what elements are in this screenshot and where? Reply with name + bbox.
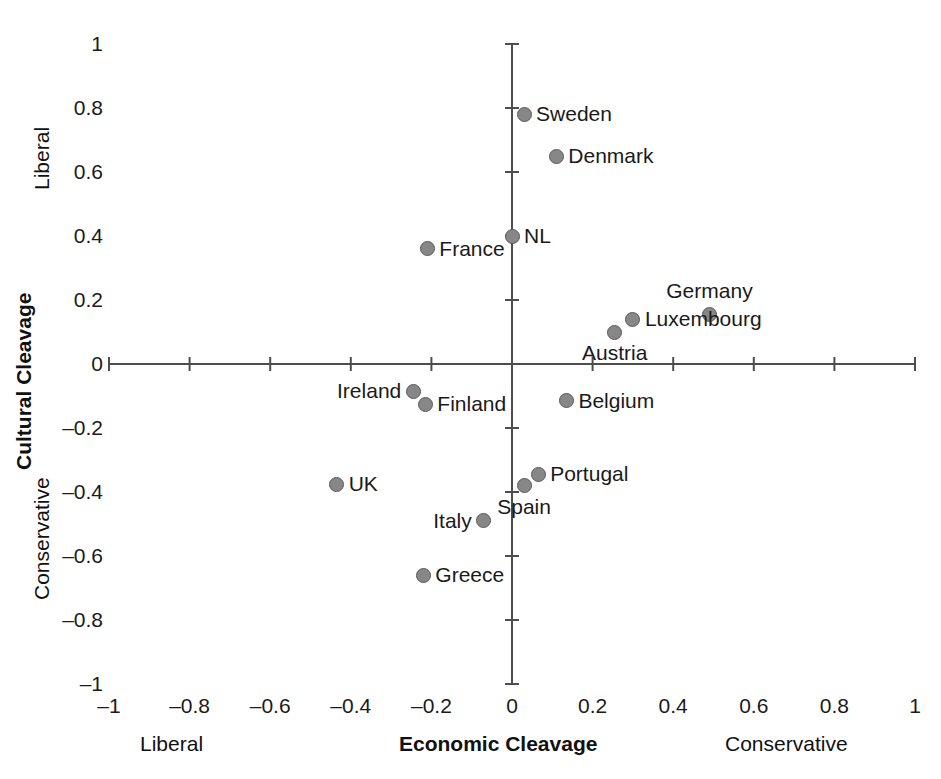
y-tick-label: 0.4 <box>74 224 103 248</box>
x-axis-liberal-label: Liberal <box>140 732 203 756</box>
data-point-label: Portugal <box>550 462 628 486</box>
data-point[interactable] <box>517 107 532 122</box>
axes-svg <box>0 0 941 779</box>
data-point-label: Greece <box>435 563 504 587</box>
data-point[interactable] <box>406 384 421 399</box>
data-point-label: NL <box>524 224 551 248</box>
x-axis-conservative-label: Conservative <box>725 732 848 756</box>
y-tick-label: –0.8 <box>62 608 103 632</box>
scatter-chart: 10.80.60.40.20–0.2–0.4–0.6–0.8–1 –1–0.8–… <box>0 0 941 779</box>
y-tick-label: 0.2 <box>74 288 103 312</box>
data-point[interactable] <box>329 477 344 492</box>
data-point-label: Ireland <box>337 379 401 403</box>
data-point-label: Finland <box>437 392 506 416</box>
x-tick-label: –0.8 <box>169 694 210 718</box>
y-tick-label: 0.8 <box>74 96 103 120</box>
data-point-label: France <box>439 237 504 261</box>
x-tick-label: 1 <box>909 694 921 718</box>
x-tick-label: 0.4 <box>659 694 688 718</box>
x-tick-label: 0.6 <box>739 694 768 718</box>
y-tick-label: –1 <box>80 672 103 696</box>
x-tick-label: –0.2 <box>411 694 452 718</box>
y-axis-title: Cultural Cleavage <box>12 293 36 470</box>
y-axis-conservative-label: Conservative <box>30 477 54 600</box>
x-tick-label: –1 <box>97 694 120 718</box>
y-tick-label: 0.6 <box>74 160 103 184</box>
data-point[interactable] <box>531 467 546 482</box>
data-point[interactable] <box>625 312 640 327</box>
data-point-label: UK <box>349 472 378 496</box>
x-axis-title: Economic Cleavage <box>399 732 597 756</box>
data-point-label: Austria <box>582 341 647 365</box>
data-point-label: Luxembourg <box>645 307 762 331</box>
data-point[interactable] <box>416 568 431 583</box>
y-tick-label: –0.2 <box>62 416 103 440</box>
x-tick-label: –0.6 <box>250 694 291 718</box>
data-point[interactable] <box>505 229 520 244</box>
x-tick-label: 0.8 <box>820 694 849 718</box>
y-tick-label: 1 <box>91 32 103 56</box>
data-point-label: Belgium <box>578 389 654 413</box>
x-tick-label: 0 <box>506 694 518 718</box>
plot-area: 10.80.60.40.20–0.2–0.4–0.6–0.8–1 –1–0.8–… <box>0 0 941 779</box>
y-axis-liberal-label: Liberal <box>30 127 54 190</box>
data-point[interactable] <box>517 478 532 493</box>
data-point-label: Spain <box>497 495 551 519</box>
data-point[interactable] <box>549 149 564 164</box>
data-point-label: Germany <box>666 279 752 303</box>
x-tick-label: –0.4 <box>330 694 371 718</box>
y-tick-label: 0 <box>91 352 103 376</box>
data-point[interactable] <box>418 397 433 412</box>
data-point[interactable] <box>607 325 622 340</box>
y-tick-label: –0.6 <box>62 544 103 568</box>
data-point-label: Sweden <box>536 102 612 126</box>
x-tick-label: 0.2 <box>578 694 607 718</box>
data-point-label: Denmark <box>568 144 653 168</box>
data-point-label: Italy <box>433 509 472 533</box>
y-tick-label: –0.4 <box>62 480 103 504</box>
